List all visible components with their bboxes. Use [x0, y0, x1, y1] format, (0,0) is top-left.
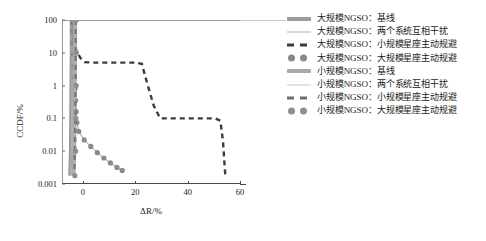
- x-tick-label: 40: [183, 184, 192, 197]
- legend-item[interactable]: 大规模NGSO：大规模星座主动规避: [286, 52, 484, 65]
- plot-area: 1001010.10.010.001 0204060: [62, 20, 240, 184]
- data-series-layer: [62, 20, 240, 184]
- legend-item[interactable]: 小规模NGSO：基线: [286, 65, 484, 78]
- legend-label: 小规模NGSO：大规模星座主动规避: [317, 106, 457, 115]
- y-tick-label: 0.01: [42, 147, 62, 156]
- axis-top-spine-extension: [240, 20, 286, 21]
- legend-key-dashed-icon: [286, 92, 312, 103]
- y-tick-mark: [62, 184, 65, 185]
- axis-bottom-spine: [62, 183, 240, 184]
- legend-label: 小规模NGSO：小规模星座主动规避: [317, 93, 457, 102]
- legend-key-thick-solid-icon: [286, 66, 312, 77]
- y-tick-label: 1: [53, 81, 62, 90]
- legend-item[interactable]: 大规模NGSO：小规模星座主动规避: [286, 38, 484, 51]
- legend-label: 大规模NGSO：大规模星座主动规避: [317, 54, 457, 63]
- series-dotted-markers: [70, 20, 125, 173]
- x-tick-label: 20: [131, 184, 140, 197]
- legend-item[interactable]: 小规模NGSO：小规模星座主动规避: [286, 91, 484, 104]
- legend-key-thick-solid-icon: [286, 13, 312, 24]
- x-tick-mark: [83, 181, 84, 184]
- legend-key-dotted-markers-icon: [286, 105, 312, 116]
- y-tick-label: 100: [44, 16, 62, 25]
- legend-item[interactable]: 大规模NGSO：基线: [286, 12, 484, 25]
- legend-label: 小规模NGSO：两个系统互相干扰: [317, 80, 448, 89]
- axis-bottom-spine-extension: [240, 184, 246, 185]
- legend-item[interactable]: 小规模NGSO：大规模星座主动规避: [286, 104, 484, 117]
- legend: 大规模NGSO：基线大规模NGSO：两个系统互相干扰大规模NGSO：小规模星座主…: [286, 12, 484, 118]
- x-tick-label: 0: [81, 184, 85, 197]
- legend-label: 小规模NGSO：基线: [317, 67, 395, 76]
- y-tick-mark: [62, 20, 65, 21]
- chart-figure: CCDF/% 1001010.10.010.001 0204060 ΔR/% 大…: [0, 0, 486, 241]
- axis-top-spine: [62, 20, 240, 21]
- x-tick-mark: [135, 181, 136, 184]
- legend-label: 大规模NGSO：两个系统互相干扰: [317, 27, 448, 36]
- legend-item[interactable]: 小规模NGSO：两个系统互相干扰: [286, 78, 484, 91]
- y-tick-mark: [62, 118, 65, 119]
- x-axis-title: ΔR/%: [62, 206, 240, 216]
- legend-key-dashed-icon: [286, 39, 312, 50]
- x-tick-label: 60: [236, 184, 245, 197]
- legend-label: 大规模NGSO：基线: [317, 14, 395, 23]
- y-tick-label: 0.001: [38, 180, 62, 189]
- y-tick-mark: [62, 151, 65, 152]
- y-tick-mark: [62, 52, 65, 53]
- legend-key-thin-solid-icon: [286, 26, 312, 37]
- legend-item[interactable]: 大规模NGSO：两个系统互相干扰: [286, 25, 484, 38]
- y-tick-label: 10: [49, 49, 63, 58]
- legend-label: 大规模NGSO：小规模星座主动规避: [317, 40, 457, 49]
- y-tick-label: 0.1: [46, 114, 62, 123]
- axis-left-spine: [62, 20, 63, 184]
- y-tick-mark: [62, 85, 65, 86]
- x-tick-mark: [188, 181, 189, 184]
- y-axis-title: CCDF/%: [15, 104, 25, 138]
- legend-key-thin-solid-icon: [286, 79, 312, 90]
- legend-key-dotted-markers-icon: [286, 53, 312, 64]
